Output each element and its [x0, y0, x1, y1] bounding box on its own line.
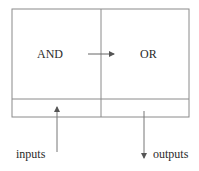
outputs-label: outputs [153, 148, 188, 160]
inputs-label: inputs [16, 148, 45, 160]
and-block-label: AND [37, 48, 63, 60]
or-block-label: OR [140, 48, 157, 60]
diagram-canvas [0, 0, 199, 171]
